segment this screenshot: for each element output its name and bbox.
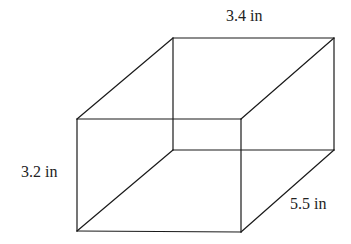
top-left-depth-edge — [77, 38, 173, 119]
depth-label: 5.5 in — [290, 196, 326, 212]
height-label: 3.2 in — [21, 164, 57, 180]
length-label: 3.4 in — [226, 8, 262, 24]
rectangular-prism-figure: 3.4 in 3.2 in 5.5 in — [0, 0, 351, 244]
front-bottom-edge — [77, 231, 241, 232]
top-right-depth-edge — [241, 38, 334, 119]
bottom-right-depth-edge — [241, 150, 334, 232]
bottom-left-depth-edge — [77, 150, 173, 231]
